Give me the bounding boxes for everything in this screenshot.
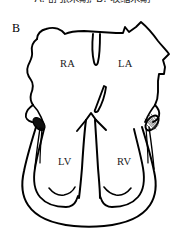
septal-crest: [86, 113, 96, 120]
left-ventricle-outer-wall: [22, 127, 155, 227]
heart-outline-drawing: [0, 0, 185, 235]
chamber-label-left-atrium: LA: [118, 58, 133, 69]
septal-crest-right-limb: [96, 120, 106, 130]
interventricular-septum-left: [79, 120, 86, 198]
chamber-label-left-ventricle: LV: [58, 156, 72, 167]
mitral-valve-annulus: [31, 115, 48, 132]
outflow-tract-sliver: [95, 86, 106, 112]
heart-diagram-figure: A. 舒张末期; B. 收缩末期 B: [0, 0, 185, 235]
chamber-label-right-ventricle: RV: [117, 156, 131, 167]
right-atrium-left-wall: [27, 39, 37, 105]
interatrial-septum: [92, 34, 100, 65]
chamber-label-right-atrium: RA: [60, 58, 75, 69]
interventricular-septum-right: [95, 120, 100, 198]
apical-trabeculation-right: [104, 187, 131, 195]
apical-trabeculation-left: [49, 187, 75, 195]
right-chordae-inner: [146, 128, 148, 163]
left-chordae-inner: [40, 128, 42, 163]
right-atrium-outline: [37, 28, 116, 39]
